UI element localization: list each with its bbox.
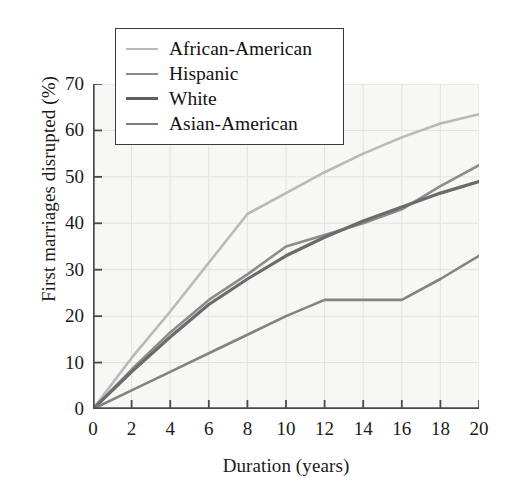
legend-item-label: White [169, 89, 217, 109]
y-tick-label: 0 [50, 398, 84, 420]
x-tick-label: 4 [150, 418, 190, 440]
x-tick-label: 14 [343, 418, 383, 440]
x-tick-label: 16 [382, 418, 422, 440]
legend-item: Hispanic [126, 61, 333, 86]
x-axis-title: Duration (years) [93, 455, 479, 477]
legend-item: African-American [126, 36, 333, 61]
legend-item: White [126, 86, 333, 111]
x-tick-label: 0 [73, 418, 113, 440]
x-axis-tick-labels: 02468101214161820 [93, 418, 479, 444]
x-tick-label: 2 [112, 418, 152, 440]
legend-swatch-icon [126, 123, 158, 125]
y-tick-label: 40 [50, 212, 84, 234]
x-tick-label: 20 [459, 418, 499, 440]
y-tick-label: 60 [50, 119, 84, 141]
legend-swatch-icon [126, 97, 158, 100]
y-tick-label: 50 [50, 166, 84, 188]
y-tick-label: 20 [50, 305, 84, 327]
legend-item-label: African-American [169, 39, 312, 59]
legend-swatch-icon [126, 73, 158, 75]
chart-figure: First marriages disrupted (%) Duration (… [0, 0, 511, 501]
x-tick-label: 8 [227, 418, 267, 440]
y-axis-tick-labels: 010203040506070 [48, 84, 84, 409]
legend-item-label: Asian-American [169, 114, 298, 134]
y-tick-label: 10 [50, 352, 84, 374]
y-tick-label: 70 [50, 73, 84, 95]
legend-item: Asian-American [126, 111, 333, 136]
x-tick-label: 18 [420, 418, 460, 440]
y-tick-label: 30 [50, 259, 84, 281]
x-tick-label: 6 [189, 418, 229, 440]
x-tick-label: 12 [305, 418, 345, 440]
legend-item-label: Hispanic [169, 64, 238, 84]
x-tick-label: 10 [266, 418, 306, 440]
legend: African-AmericanHispanicWhiteAsian-Ameri… [115, 28, 344, 145]
legend-swatch-icon [126, 48, 158, 50]
